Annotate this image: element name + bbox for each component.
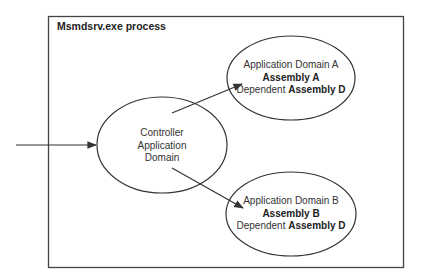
- controller-line1: Controller: [117, 127, 207, 140]
- domain-a-dependent-assembly: Assembly D: [288, 84, 345, 95]
- domain-a-label: Application Domain A Assembly A Dependen…: [231, 59, 351, 97]
- diagram-canvas: [0, 0, 421, 279]
- domain-b-name: Application Domain B: [231, 195, 351, 208]
- domain-a-assembly: Assembly A: [263, 72, 320, 83]
- controller-line2: Application: [117, 140, 207, 153]
- domain-b-dependent-assembly: Assembly D: [288, 220, 345, 231]
- process-title: Msmdsrv.exe process: [57, 20, 166, 32]
- domain-b-dependent-prefix: Dependent: [237, 220, 286, 231]
- domain-a-name: Application Domain A: [231, 59, 351, 72]
- domain-b-label: Application Domain B Assembly B Dependen…: [231, 195, 351, 233]
- controller-line3: Domain: [117, 152, 207, 165]
- controller-label: Controller Application Domain: [117, 127, 207, 165]
- domain-b-assembly: Assembly B: [262, 208, 319, 219]
- domain-a-dependent-prefix: Dependent: [237, 84, 286, 95]
